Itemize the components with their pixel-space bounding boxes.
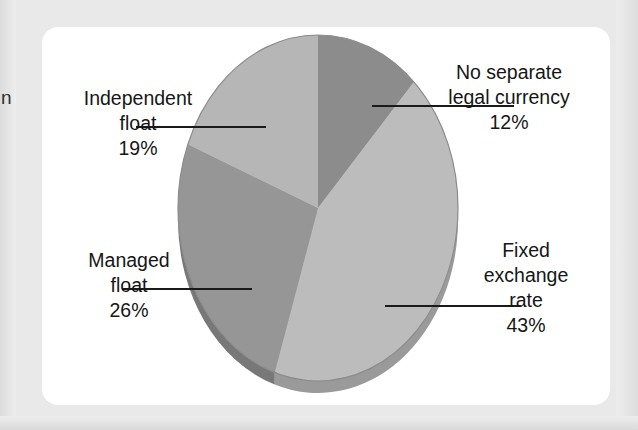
callout-independent-float: Independent float 19% bbox=[48, 61, 228, 186]
pie-chart: No separate legal currency 12% Fixed exc… bbox=[42, 27, 610, 405]
figure-card: No separate legal currency 12% Fixed exc… bbox=[42, 27, 610, 405]
callout-managed-float: Managed float 26% bbox=[48, 223, 210, 348]
callout-no-separate-legal-currency: No separate legal currency 12% bbox=[414, 35, 604, 160]
scan-edge-right bbox=[616, 0, 638, 430]
scan-edge-left bbox=[0, 0, 16, 430]
figure-page: n bbox=[0, 0, 638, 430]
callout-label-managed-float: Managed float bbox=[88, 249, 169, 296]
callout-fixed-exchange-rate: Fixed exchange rate 43% bbox=[450, 213, 602, 363]
callout-percent-no-separate-legal-currency: 12% bbox=[414, 110, 604, 135]
callout-percent-independent-float: 19% bbox=[48, 136, 228, 161]
callout-label-independent-float: Independent float bbox=[84, 87, 192, 134]
page-edge-text-fragment: n bbox=[1, 88, 12, 107]
scan-edge-bottom bbox=[0, 416, 638, 430]
callout-percent-fixed-exchange-rate: 43% bbox=[450, 313, 602, 338]
callout-percent-managed-float: 26% bbox=[48, 298, 210, 323]
callout-label-no-separate-legal-currency: No separate legal currency bbox=[448, 61, 569, 108]
callout-label-fixed-exchange-rate: Fixed exchange rate bbox=[484, 239, 569, 311]
